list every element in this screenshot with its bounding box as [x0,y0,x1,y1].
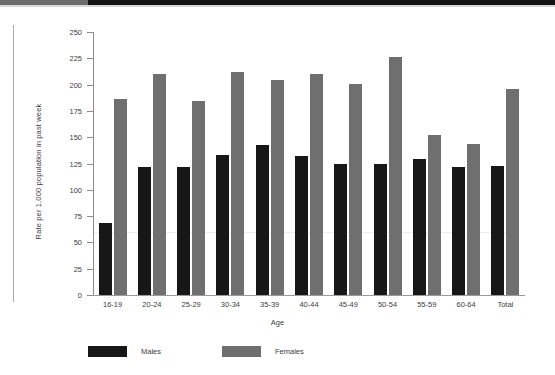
y-tick-mark [87,137,93,138]
y-tick-mark [87,32,93,33]
x-tick-label-35-39: 35-39 [250,300,289,309]
bar-group [413,32,441,295]
y-tick-label: 75 [58,212,82,221]
x-tick-label-60-64: 60-64 [446,300,485,309]
bar-males-Total[interactable] [491,166,504,295]
y-tick-mark [87,111,93,112]
bar-females-Total[interactable] [506,89,519,295]
bar-males-25-29[interactable] [177,167,190,295]
bar-males-50-54[interactable] [374,164,387,296]
bar-females-25-29[interactable] [192,101,205,295]
bar-males-20-24[interactable] [138,167,151,295]
plot-area [93,32,525,295]
bar-males-60-64[interactable] [452,167,465,295]
bar-females-55-59[interactable] [428,135,441,295]
bar-females-20-24[interactable] [153,74,166,295]
bar-males-55-59[interactable] [413,159,426,295]
x-tick-label-40-44: 40-44 [289,300,328,309]
bar-females-45-49[interactable] [349,84,362,295]
x-tick-label-25-29: 25-29 [172,300,211,309]
y-tick-mark [87,216,93,217]
x-tick-label-16-19: 16-19 [93,300,132,309]
bar-group [374,32,402,295]
bar-group [99,32,127,295]
y-tick-label: 50 [58,238,82,247]
x-tick-label-50-54: 50-54 [368,300,407,309]
legend-entry-males[interactable]: Males [88,346,161,357]
y-tick-label: 150 [58,133,82,142]
y-tick-label: 100 [58,185,82,194]
bar-females-16-19[interactable] [114,99,127,295]
y-tick-mark [87,295,93,296]
bar-group [491,32,519,295]
y-tick-mark [87,164,93,165]
x-tick-label-20-24: 20-24 [132,300,171,309]
y-tick-label: 175 [58,106,82,115]
x-tick-label-30-34: 30-34 [211,300,250,309]
legend-swatch-females [222,346,261,357]
legend-swatch-males [88,346,127,357]
x-tick-label-45-49: 45-49 [329,300,368,309]
bar-females-30-34[interactable] [231,72,244,295]
y-tick-mark [87,190,93,191]
legend-label-females: Females [275,347,304,356]
bar-males-45-49[interactable] [334,164,347,296]
y-tick-label: 25 [58,264,82,273]
y-tick-label: 200 [58,80,82,89]
legend-label-males: Males [141,347,161,356]
x-tick-label-Total: Total [486,300,525,309]
y-tick-mark [87,269,93,270]
bar-females-60-64[interactable] [467,144,480,295]
bar-chart-figure: Rate per 1,000 population in past week 0… [0,7,555,375]
bar-group [295,32,323,295]
legend-entry-females[interactable]: Females [222,346,304,357]
bar-females-35-39[interactable] [271,80,284,295]
x-tick-label-55-59: 55-59 [407,300,446,309]
y-tick-label: 225 [58,54,82,63]
bar-group [256,32,284,295]
bar-group [334,32,362,295]
y-tick-mark [87,242,93,243]
x-axis-title: Age [0,318,555,327]
x-axis-line [93,295,525,296]
bar-females-40-44[interactable] [310,74,323,295]
y-tick-label: 125 [58,159,82,168]
y-tick-label: 250 [58,28,82,37]
bar-males-35-39[interactable] [256,145,269,295]
y-axis-title: Rate per 1,000 population in past week [34,72,43,272]
bar-males-30-34[interactable] [216,155,229,295]
bar-group [452,32,480,295]
bar-males-16-19[interactable] [99,223,112,295]
bar-males-40-44[interactable] [295,156,308,295]
bar-group [177,32,205,295]
page-spine-line [13,25,14,302]
y-tick-label: 0 [58,291,82,300]
bar-females-50-54[interactable] [389,57,402,295]
y-tick-mark [87,85,93,86]
y-tick-mark [87,58,93,59]
bar-group [216,32,244,295]
bar-group [138,32,166,295]
